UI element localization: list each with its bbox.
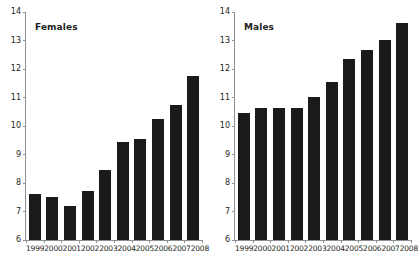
y-axis-tick: 8 [225, 179, 235, 187]
x-axis-tick-label: 1999 [26, 245, 44, 253]
y-axis-tick-mark [232, 211, 235, 212]
bar-slot [358, 12, 376, 240]
y-axis-tick: 14 [220, 8, 235, 16]
bar-slot [376, 12, 394, 240]
x-axis-tick-label: 2003 [308, 245, 326, 253]
bar-slot [253, 12, 271, 240]
bar-slot [393, 12, 411, 240]
bar-slot [61, 12, 79, 240]
bar-slot [44, 12, 62, 240]
y-axis-tick: 11 [11, 94, 26, 102]
y-axis-tick-label: 11 [220, 94, 232, 102]
bar-slot [323, 12, 341, 240]
bar-slot [114, 12, 132, 240]
bar [379, 40, 391, 240]
x-axis-tick-mark [253, 240, 254, 243]
bar [343, 59, 355, 240]
bar [117, 142, 129, 240]
x-axis-tick-label: 2007 [172, 245, 190, 253]
bar [134, 139, 146, 240]
y-axis-tick: 10 [220, 122, 235, 130]
y-axis-tick-label: 14 [220, 8, 232, 16]
y-axis-tick: 6 [225, 236, 235, 244]
y-axis-tick-label: 8 [225, 179, 232, 187]
bar-group-males [235, 12, 411, 240]
bar [326, 82, 338, 240]
y-axis-tick: 12 [220, 65, 235, 73]
y-axis-tick-mark [23, 126, 26, 127]
x-axis-tick-mark [393, 240, 394, 243]
bar [152, 119, 164, 240]
y-axis-tick-mark [23, 40, 26, 41]
y-axis-tick-label: 9 [16, 151, 23, 159]
bar [273, 108, 285, 240]
y-axis-tick-label: 7 [16, 208, 23, 216]
x-axis-tick-label: 2000 [44, 245, 62, 253]
x-axis-tick-mark [184, 240, 185, 243]
bar-slot [149, 12, 167, 240]
x-axis-tick-mark [202, 240, 203, 243]
x-axis-tick-mark [114, 240, 115, 243]
bar-slot [184, 12, 202, 240]
bar [396, 23, 408, 240]
y-axis-tick-mark [23, 211, 26, 212]
bar-group-females [26, 12, 202, 240]
x-axis-tick-label: 2000 [253, 245, 271, 253]
y-axis-tick-label: 13 [220, 37, 232, 45]
y-axis-tick: 14 [11, 8, 26, 16]
y-axis-tick-mark [232, 40, 235, 41]
y-axis-tick-label: 11 [11, 94, 23, 102]
y-axis-tick-mark [23, 12, 26, 13]
x-axis-tick-mark [132, 240, 133, 243]
bar [99, 170, 111, 240]
y-axis-tick-mark [232, 12, 235, 13]
x-axis-tick-label: 2005 [136, 245, 154, 253]
x-axis-tick-mark [411, 240, 412, 243]
y-axis-tick: 9 [225, 151, 235, 159]
x-axis-tick-mark [305, 240, 306, 243]
y-axis-tick: 7 [16, 208, 26, 216]
y-axis-tick-mark [232, 183, 235, 184]
bar-slot [305, 12, 323, 240]
bar-slot [79, 12, 97, 240]
y-axis-tick: 8 [16, 179, 26, 187]
x-axis-tick-label: 2001 [272, 245, 290, 253]
bar [29, 194, 41, 240]
y-axis-tick-label: 6 [225, 236, 232, 244]
bar-slot [167, 12, 185, 240]
x-axis-tick-mark [167, 240, 168, 243]
x-axis-tick-label: 2008 [191, 245, 209, 253]
x-axis-tick-mark [96, 240, 97, 243]
x-axis-tick-mark [376, 240, 377, 243]
x-axis-tick-label: 1999 [235, 245, 253, 253]
y-axis-tick-mark [232, 126, 235, 127]
x-axis-tick-mark [235, 240, 236, 243]
figure: Females 67891011121314 19992000200120022… [0, 0, 418, 268]
y-axis-tick-mark [232, 69, 235, 70]
bar-slot [235, 12, 253, 240]
bar [187, 76, 199, 240]
y-axis-tick: 11 [220, 94, 235, 102]
y-axis-tick-label: 10 [11, 122, 23, 130]
y-axis-tick-label: 12 [220, 65, 232, 73]
x-axis-tick-mark [26, 240, 27, 243]
bar [170, 105, 182, 240]
x-axis-tick-mark [323, 240, 324, 243]
x-axis-tick-mark [149, 240, 150, 243]
x-axis-tick-label: 2002 [81, 245, 99, 253]
y-axis-tick-label: 9 [225, 151, 232, 159]
x-axis-tick-label: 2008 [400, 245, 418, 253]
bar-slot [132, 12, 150, 240]
y-axis-tick: 12 [11, 65, 26, 73]
bar [46, 197, 58, 240]
y-axis-tick-mark [23, 69, 26, 70]
bar-slot [270, 12, 288, 240]
y-axis-tick-mark [23, 97, 26, 98]
bar [255, 108, 267, 240]
x-axis-tick-mark [358, 240, 359, 243]
x-axis-labels-males: 1999200020012002200320042005200620072008 [235, 245, 411, 253]
bar [64, 206, 76, 240]
panel-females: Females 67891011121314 19992000200120022… [0, 0, 209, 268]
plot-area-males: 67891011121314 [235, 12, 411, 240]
y-axis-tick-label: 13 [11, 37, 23, 45]
